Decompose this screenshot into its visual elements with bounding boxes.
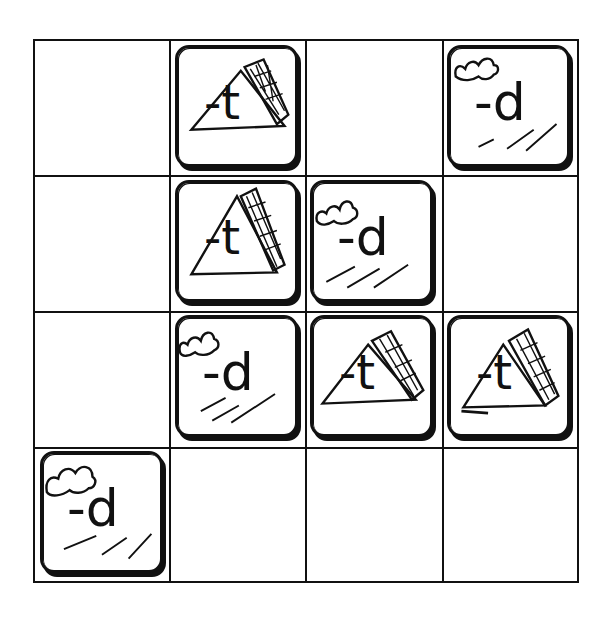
tile-t[interactable]: -t (175, 45, 298, 167)
board-cell-r1c0[interactable] (35, 176, 171, 312)
board-cell-r1c3[interactable] (442, 176, 578, 312)
tile-t[interactable]: -t (175, 180, 298, 302)
board-cell-r0c0[interactable] (35, 41, 171, 177)
tile-label: -t (339, 348, 375, 396)
game-board: -t -d -t -d (33, 39, 579, 583)
tile-label: -d (202, 346, 254, 398)
tile-label: -t (204, 78, 240, 126)
tile-label: -t (204, 213, 240, 261)
board-cell-r2c3[interactable]: -t (442, 311, 578, 447)
board-cell-r2c1[interactable]: -d (170, 311, 306, 447)
board-cell-r2c2[interactable]: -t (305, 311, 441, 447)
tile-t[interactable]: -t (310, 315, 433, 437)
board-cell-r3c2[interactable] (305, 447, 441, 583)
tile-d[interactable]: -d (40, 451, 163, 573)
tile-t[interactable]: -t (447, 315, 570, 437)
board-cell-r0c2[interactable] (305, 41, 441, 177)
tile-label: -d (474, 76, 526, 128)
board-cell-r3c0[interactable]: -d (35, 447, 171, 583)
board-cell-r1c2[interactable]: -d (305, 176, 441, 312)
board-cell-r2c0[interactable] (35, 311, 171, 447)
tile-label: -d (67, 482, 119, 534)
tile-d[interactable]: -d (447, 45, 570, 167)
board-cell-r0c1[interactable]: -t (170, 41, 306, 177)
board-cell-r0c3[interactable]: -d (442, 41, 578, 177)
board-cell-r1c1[interactable]: -t (170, 176, 306, 312)
tile-label: -d (337, 211, 389, 263)
board-cell-r3c3[interactable] (442, 447, 578, 583)
tile-d[interactable]: -d (310, 180, 433, 302)
tile-label: -t (476, 348, 512, 396)
tile-d[interactable]: -d (175, 315, 298, 437)
board-cell-r3c1[interactable] (170, 447, 306, 583)
